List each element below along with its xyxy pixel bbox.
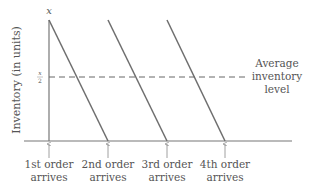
inventory-line-2	[108, 20, 167, 141]
order-label-2-line-2: arrives	[89, 171, 126, 183]
y-axis-label: Inventory (in units)	[10, 26, 23, 134]
order-label-3-line-1: 3rd order	[141, 158, 193, 170]
y-mid-denominator: 2	[38, 77, 42, 84]
inventory-line-1	[49, 20, 108, 141]
avg-label-line-3: level	[264, 83, 290, 95]
order-label-1-line-1: 1st order	[25, 158, 75, 170]
y-top-label: x	[46, 5, 52, 16]
order-label-3-line-2: arrives	[148, 171, 185, 183]
y-mid-numerator: x	[38, 69, 42, 76]
order-label-2-line-1: 2nd order	[82, 158, 136, 170]
avg-label-line-1: Average	[254, 57, 299, 69]
order-label-1-line-2: arrives	[30, 171, 67, 183]
avg-label-line-2: inventory	[252, 70, 303, 82]
inventory-diagram: Inventory (in units) x x 2 Average inven…	[0, 0, 312, 188]
order-label-4-line-2: arrives	[206, 171, 243, 183]
inventory-line-3	[167, 20, 225, 141]
order-label-4-line-1: 4th order	[200, 158, 251, 170]
